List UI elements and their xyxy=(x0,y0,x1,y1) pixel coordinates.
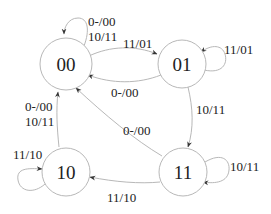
state-11-label: 11 xyxy=(174,162,192,183)
label-11-10: 11/10 xyxy=(107,190,136,205)
label-01-01: 11/01 xyxy=(224,42,253,57)
label-01-00: 0-/00 xyxy=(111,85,138,100)
state-00: 00 xyxy=(40,38,92,90)
label-00-00-line2: 10/11 xyxy=(88,29,117,44)
transition-10-00 xyxy=(57,92,59,147)
label-10-00-line2: 10/11 xyxy=(25,114,54,129)
state-10-label: 10 xyxy=(57,162,76,183)
transition-01-00 xyxy=(88,75,161,82)
state-01: 01 xyxy=(158,40,206,88)
transition-10-10 xyxy=(18,169,45,191)
state-diagram: 00 01 10 11 0-/00 10/11 11/01 11/01 0-/0… xyxy=(0,0,271,214)
label-00-01: 11/01 xyxy=(123,36,152,51)
label-00-00-line1: 0-/00 xyxy=(88,14,115,29)
label-10-10: 11/10 xyxy=(13,147,42,162)
transition-01-11 xyxy=(188,87,192,147)
state-10: 10 xyxy=(42,148,90,196)
state-00-label: 00 xyxy=(57,54,76,75)
label-11-11: 10/11 xyxy=(230,159,259,174)
state-01-label: 01 xyxy=(173,54,192,75)
state-11: 11 xyxy=(159,148,207,196)
label-01-11: 10/11 xyxy=(196,102,225,117)
transition-11-10 xyxy=(90,177,160,183)
label-11-00: 0-/00 xyxy=(123,123,150,138)
label-10-00-line1: 0-/00 xyxy=(25,99,52,114)
